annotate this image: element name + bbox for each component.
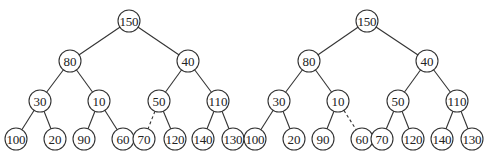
node-label: 140	[433, 132, 452, 147]
tree-node-60: 60	[112, 128, 134, 150]
node-label: 40	[421, 54, 434, 69]
tree-node-120: 120	[402, 128, 424, 150]
tree-node-120: 120	[164, 128, 186, 150]
node-label: 150	[120, 14, 139, 29]
tree-node-50: 50	[387, 90, 409, 112]
tree-node-140: 140	[431, 128, 453, 150]
tree-node-10: 10	[327, 90, 349, 112]
tree-node-140: 140	[192, 128, 214, 150]
node-label: 130	[463, 132, 482, 147]
tree-node-150: 150	[118, 10, 140, 32]
tree-node-70: 70	[371, 128, 393, 150]
node-label: 110	[209, 94, 228, 109]
node-label: 90	[317, 132, 330, 147]
tree-node-90: 90	[73, 128, 95, 150]
tree-node-30: 30	[29, 90, 51, 112]
tree-node-80: 80	[298, 50, 320, 72]
tree-node-110: 110	[207, 90, 229, 112]
node-label: 150	[358, 14, 377, 29]
tree-node-70: 70	[133, 128, 155, 150]
node-label: 120	[166, 132, 185, 147]
tree-node-130: 130	[461, 128, 483, 150]
tree-node-80: 80	[59, 50, 81, 72]
tree-node-10: 10	[88, 90, 110, 112]
node-label: 80	[64, 54, 77, 69]
left-tree: 150804030105011010020906070120140130	[5, 10, 244, 150]
node-label: 140	[194, 132, 213, 147]
tree-node-110: 110	[446, 90, 468, 112]
tree-node-90: 90	[312, 128, 334, 150]
tree-diagram-canvas: 150804030105011010020906070120140130 150…	[0, 0, 498, 164]
node-label: 100	[7, 132, 26, 147]
node-label: 20	[49, 132, 62, 147]
node-label: 80	[303, 54, 316, 69]
node-label: 30	[34, 94, 47, 109]
node-label: 30	[273, 94, 286, 109]
tree-node-150: 150	[356, 10, 378, 32]
node-label: 130	[224, 132, 243, 147]
node-label: 50	[153, 94, 166, 109]
node-label: 100	[246, 132, 265, 147]
node-label: 110	[448, 94, 467, 109]
node-label: 90	[78, 132, 91, 147]
node-label: 10	[93, 94, 106, 109]
tree-node-100: 100	[244, 128, 266, 150]
right-tree: 150804030105011010020906070120140130	[244, 10, 483, 150]
node-label: 10	[332, 94, 345, 109]
tree-node-40: 40	[416, 50, 438, 72]
tree-node-130: 130	[222, 128, 244, 150]
node-label: 120	[404, 132, 423, 147]
node-label: 70	[376, 132, 389, 147]
node-label: 60	[117, 132, 130, 147]
node-label: 60	[356, 132, 369, 147]
tree-node-40: 40	[177, 50, 199, 72]
node-label: 70	[138, 132, 151, 147]
tree-node-30: 30	[268, 90, 290, 112]
tree-node-20: 20	[44, 128, 66, 150]
node-label: 40	[182, 54, 195, 69]
tree-node-20: 20	[283, 128, 305, 150]
tree-node-50: 50	[148, 90, 170, 112]
tree-node-60: 60	[351, 128, 373, 150]
node-label: 50	[392, 94, 405, 109]
node-label: 20	[288, 132, 301, 147]
tree-node-100: 100	[5, 128, 27, 150]
